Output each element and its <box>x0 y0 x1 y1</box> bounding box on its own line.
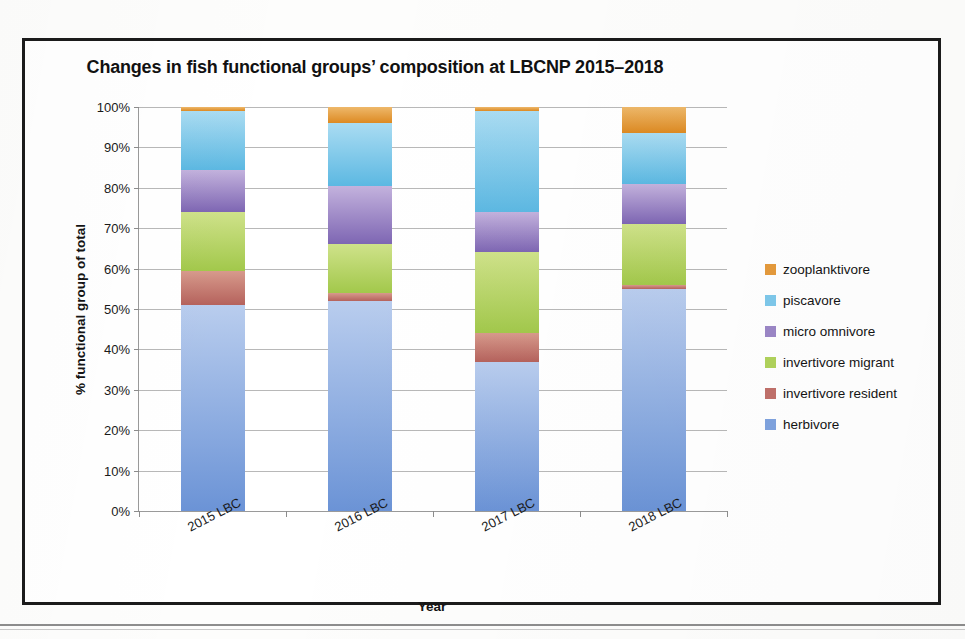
y-tick-label: 30% <box>104 382 130 397</box>
bar-segment-zooplanktivore[interactable] <box>328 107 392 123</box>
x-tick-mark <box>580 511 581 517</box>
legend-item-invertivore-resident[interactable]: invertivore resident <box>765 378 945 409</box>
y-axis-title-label: % functional group of total <box>73 224 88 395</box>
bar-column[interactable] <box>328 107 392 511</box>
legend-item-piscavore[interactable]: piscavore <box>765 285 945 316</box>
bar-stack <box>622 107 686 511</box>
bar-segment-invertivore-resident[interactable] <box>328 293 392 301</box>
bar-column[interactable] <box>475 107 539 511</box>
x-tick-mark <box>139 511 140 517</box>
page-divider-rule <box>0 624 965 626</box>
legend-label: zooplanktivore <box>783 262 870 277</box>
y-tick-label: 40% <box>104 342 130 357</box>
bar-segment-piscavore[interactable] <box>328 123 392 186</box>
bar-segment-herbivore[interactable] <box>622 289 686 511</box>
y-tick-label: 60% <box>104 261 130 276</box>
legend-label: herbivore <box>783 417 839 432</box>
bar-segment-micro-omnivore[interactable] <box>622 184 686 224</box>
y-tick-label: 80% <box>104 180 130 195</box>
bar-segment-invertivore-migrant[interactable] <box>475 252 539 333</box>
bar-column[interactable] <box>181 107 245 511</box>
y-tick-label: 10% <box>104 463 130 478</box>
legend-label: piscavore <box>783 293 841 308</box>
bar-segment-zooplanktivore[interactable] <box>181 107 245 111</box>
y-tick-label: 100% <box>97 100 130 115</box>
legend-item-zooplanktivore[interactable]: zooplanktivore <box>765 254 945 285</box>
bar-segment-invertivore-migrant[interactable] <box>328 244 392 292</box>
y-tick-label: 70% <box>104 221 130 236</box>
legend-swatch-icon <box>765 295 776 306</box>
bar-segment-zooplanktivore[interactable] <box>475 107 539 111</box>
legend-swatch-icon <box>765 326 776 337</box>
bar-stack <box>475 107 539 511</box>
plot-area: 0%10%20%30%40%50%60%70%80%90%100% 2015 L… <box>138 107 727 512</box>
legend-label: invertivore resident <box>783 386 897 401</box>
bar-segment-piscavore[interactable] <box>475 111 539 212</box>
bar-segment-invertivore-migrant[interactable] <box>181 212 245 271</box>
bar-segment-piscavore[interactable] <box>181 111 245 170</box>
bar-segment-herbivore[interactable] <box>475 362 539 511</box>
x-tick-mark <box>286 511 287 517</box>
bar-stack <box>328 107 392 511</box>
bar-stack <box>181 107 245 511</box>
bar-segment-micro-omnivore[interactable] <box>181 170 245 212</box>
x-tick-mark <box>433 511 434 517</box>
legend-swatch-icon <box>765 357 776 368</box>
bar-segment-piscavore[interactable] <box>622 133 686 184</box>
chart-legend: zooplanktivorepiscavoremicro omnivoreinv… <box>765 254 945 440</box>
chart-frame: Changes in fish functional groups’ compo… <box>22 38 941 605</box>
bar-segment-invertivore-resident[interactable] <box>475 333 539 361</box>
chart-page: Changes in fish functional groups’ compo… <box>0 0 965 639</box>
bar-segment-micro-omnivore[interactable] <box>328 186 392 245</box>
legend-swatch-icon <box>765 388 776 399</box>
legend-label: micro omnivore <box>783 324 875 339</box>
y-axis-title: % functional group of total <box>69 107 91 511</box>
page-divider-rule-secondary <box>0 629 965 630</box>
y-tick-label: 0% <box>111 504 130 519</box>
bar-segment-invertivore-migrant[interactable] <box>622 224 686 285</box>
bar-segment-micro-omnivore[interactable] <box>475 212 539 252</box>
bar-column[interactable] <box>622 107 686 511</box>
x-axis-title: Year <box>138 599 726 614</box>
chart-title: Changes in fish functional groups’ compo… <box>25 57 725 78</box>
legend-item-herbivore[interactable]: herbivore <box>765 409 945 440</box>
y-tick-label: 90% <box>104 140 130 155</box>
y-tick-label: 50% <box>104 302 130 317</box>
bar-segment-zooplanktivore[interactable] <box>622 107 686 133</box>
x-tick-mark <box>727 511 728 517</box>
legend-swatch-icon <box>765 419 776 430</box>
bar-segment-invertivore-resident[interactable] <box>181 271 245 305</box>
legend-label: invertivore migrant <box>783 355 894 370</box>
bar-segment-invertivore-resident[interactable] <box>622 285 686 289</box>
legend-item-micro-omnivore[interactable]: micro omnivore <box>765 316 945 347</box>
bar-segment-herbivore[interactable] <box>328 301 392 511</box>
y-tick-label: 20% <box>104 423 130 438</box>
bars-layer <box>139 107 727 511</box>
bar-segment-herbivore[interactable] <box>181 305 245 511</box>
legend-item-invertivore-migrant[interactable]: invertivore migrant <box>765 347 945 378</box>
legend-swatch-icon <box>765 264 776 275</box>
